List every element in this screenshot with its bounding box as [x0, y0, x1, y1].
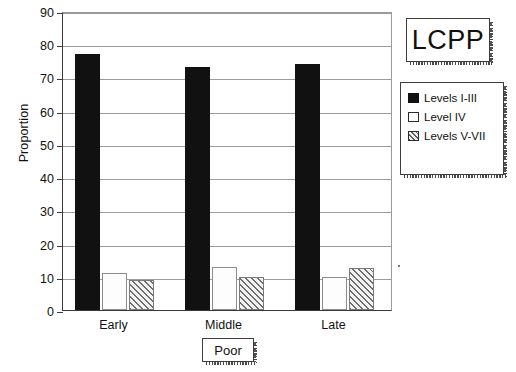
bar [185, 67, 210, 310]
legend-swatch-white-icon [408, 112, 419, 122]
legend-label: Levels I-III [424, 92, 477, 104]
bar [129, 280, 154, 310]
y-axis-tick [57, 46, 63, 47]
y-axis-tick [57, 79, 63, 80]
bar [212, 267, 237, 310]
plot-area: 0102030405060708090 [62, 12, 392, 311]
y-tick-label: 30 [14, 205, 54, 219]
legend-swatch-hatched-icon [408, 131, 419, 141]
bar [349, 268, 374, 310]
y-tick-label: 60 [14, 106, 54, 120]
box-shadow-decoration [404, 175, 506, 179]
chart-title-box: LCPP [406, 18, 490, 62]
legend-item-level-iv: Level IV [408, 111, 503, 123]
legend-item-levels-i-iii: Levels I-III [408, 92, 503, 104]
x-tick-label-middle: Middle [205, 318, 242, 332]
legend-label: Level IV [424, 111, 466, 123]
bar-group-late [295, 13, 374, 310]
bar [295, 64, 320, 310]
chart-title-text: LCPP [412, 25, 485, 56]
y-axis-tick [57, 13, 63, 14]
bar [75, 54, 100, 310]
x-axis-title-text: Poor [214, 343, 241, 358]
box-shadow-decoration [410, 62, 492, 66]
y-tick-label: 70 [14, 72, 54, 86]
y-tick-label: 40 [14, 172, 54, 186]
y-tick-label: 50 [14, 139, 54, 153]
y-axis-tick [57, 146, 63, 147]
y-axis-tick [57, 113, 63, 114]
y-axis-tick [57, 246, 63, 247]
bar [322, 277, 347, 310]
y-tick-label: 0 [14, 305, 54, 319]
bar-group-middle [185, 13, 264, 310]
bar [239, 277, 264, 310]
x-tick-label-late: Late [321, 318, 345, 332]
legend-swatch-black-icon [408, 93, 419, 103]
scan-artifact-dot [398, 265, 400, 267]
box-shadow-decoration [206, 362, 256, 366]
y-axis-tick [57, 312, 63, 313]
y-tick-label: 90 [14, 6, 54, 20]
y-axis-tick [57, 179, 63, 180]
legend-label: Levels V-VII [424, 130, 485, 142]
bar-chart-figure: Proportion 0102030405060708090 Early Mid… [0, 0, 516, 372]
bar [102, 273, 127, 310]
y-tick-label: 10 [14, 272, 54, 286]
y-tick-label: 80 [14, 39, 54, 53]
legend-item-levels-v-vii: Levels V-VII [408, 130, 503, 142]
x-tick-label-early: Early [99, 318, 127, 332]
legend-box: Levels I-III Level IV Levels V-VII [400, 82, 504, 175]
y-axis-tick [57, 279, 63, 280]
y-tick-label: 20 [14, 239, 54, 253]
bar-group-early [75, 13, 154, 310]
x-axis-title-box: Poor [202, 338, 254, 362]
y-axis-tick [57, 212, 63, 213]
